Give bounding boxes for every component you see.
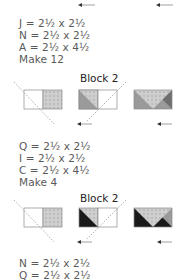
block-step-3-diagram: [130, 200, 186, 246]
block-step-1-diagram: [12, 82, 68, 128]
press-arrow-icon: [156, 2, 174, 8]
press-arrow-icon: [78, 2, 96, 8]
block-step-1-diagram: [12, 200, 68, 246]
cutting-spec: N = 2½ x 2½: [19, 257, 90, 269]
cutting-spec: A = 2½ x 4½: [19, 41, 89, 53]
make-count: Make 4: [19, 176, 57, 188]
cutting-spec: I = 2½ x 2½: [19, 152, 85, 164]
cutting-spec: Q = 2½ x 2½: [19, 140, 90, 152]
block-step-2-diagram: [72, 200, 128, 246]
cutting-spec: N = 2½ x 2½: [19, 29, 90, 41]
cutting-spec: C = 2½ x 4½: [19, 164, 90, 176]
block-step-2-diagram: [72, 82, 128, 128]
cutting-spec: J = 2½ x 2½: [19, 17, 85, 29]
cutting-spec: Q = 2½ x 2½: [19, 269, 90, 280]
make-count: Make 12: [19, 53, 64, 65]
block-step-3-diagram: [130, 82, 186, 128]
